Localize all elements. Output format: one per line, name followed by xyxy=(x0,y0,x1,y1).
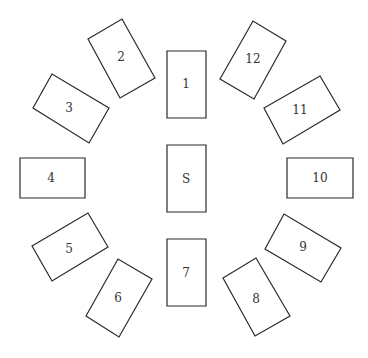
card-label: 4 xyxy=(47,171,55,185)
card-significator: S xyxy=(167,145,206,212)
diagram-canvas: 123456789101112S xyxy=(0,0,368,358)
card-label: 11 xyxy=(292,103,307,117)
card-position-10: 10 xyxy=(287,158,353,198)
card-position-8: 8 xyxy=(223,258,290,336)
card-position-2: 2 xyxy=(88,19,155,98)
card-label: 1 xyxy=(182,77,190,91)
card-position-6: 6 xyxy=(86,259,152,337)
card-spread-diagram: 123456789101112S xyxy=(0,0,368,358)
card-position-5: 5 xyxy=(32,213,108,281)
card-label: 7 xyxy=(182,266,190,280)
card-position-9: 9 xyxy=(265,214,341,282)
card-label: 2 xyxy=(117,50,125,64)
card-label: S xyxy=(182,172,190,186)
card-label: 9 xyxy=(299,240,307,254)
card-position-4: 4 xyxy=(20,158,85,198)
card-label: 10 xyxy=(312,171,327,185)
card-label: 5 xyxy=(65,242,73,256)
card-label: 12 xyxy=(245,52,260,66)
card-position-11: 11 xyxy=(264,76,340,144)
card-label: 3 xyxy=(65,101,73,115)
card-position-1: 1 xyxy=(167,51,206,118)
card-position-7: 7 xyxy=(167,239,206,306)
card-position-3: 3 xyxy=(33,74,109,143)
card-label: 6 xyxy=(114,291,122,305)
card-label: 8 xyxy=(252,292,260,306)
card-position-12: 12 xyxy=(220,21,286,99)
